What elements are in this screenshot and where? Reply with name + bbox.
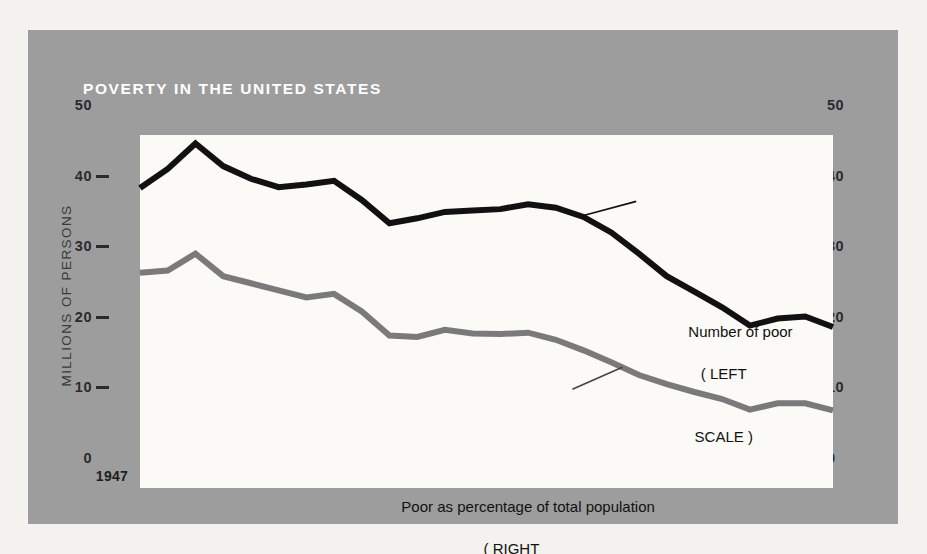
percent-leader-line	[572, 367, 622, 389]
annot-gray-line2: ( RIGHT	[368, 538, 655, 554]
left-tick-label: 10	[66, 379, 92, 395]
right-tick-label: 50	[827, 97, 853, 113]
number-of-poor-leader-line	[584, 201, 637, 215]
annot-gray-line1: Poor as percentage of total population	[401, 498, 655, 515]
poverty-chart-figure: POVERTY IN THE UNITED STATES MILLIONS OF…	[0, 0, 927, 554]
annot-black-line3: SCALE )	[655, 426, 793, 447]
chart-panel: POVERTY IN THE UNITED STATES MILLIONS OF…	[28, 30, 898, 524]
left-tick-label: 0	[66, 450, 92, 466]
left-tick-mark	[96, 316, 109, 319]
left-tick-mark	[96, 386, 109, 389]
annot-black-line1: Number of poor	[688, 323, 792, 340]
left-tick-mark	[96, 245, 109, 248]
number-of-poor-annotation: Number of poor ( LEFT SCALE )	[655, 300, 793, 489]
x-tick-label: 1947	[96, 468, 128, 484]
left-tick-mark	[96, 175, 109, 178]
left-tick-label: 20	[66, 309, 92, 325]
left-axis-title: MILLIONS OF PERSONS	[59, 205, 74, 387]
percent-annotation: Poor as percentage of total population (…	[368, 475, 655, 554]
left-tick-label: 40	[66, 168, 92, 184]
chart-title: POVERTY IN THE UNITED STATES	[83, 80, 382, 98]
left-tick-label: 50	[66, 97, 92, 113]
annot-black-line2: ( LEFT	[655, 363, 793, 384]
left-tick-label: 30	[66, 238, 92, 254]
plot-area: Number of poor ( LEFT SCALE ) Poor as pe…	[140, 135, 833, 488]
